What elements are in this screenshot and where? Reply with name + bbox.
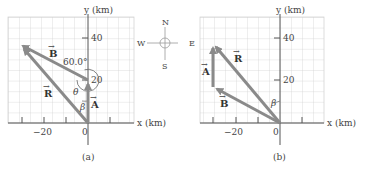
compass-S: S bbox=[162, 62, 167, 71]
y-tick-label-20-b: 20 bbox=[283, 75, 295, 85]
arrow-over-B-a: → bbox=[48, 42, 55, 51]
y-tick-label-40-b: 40 bbox=[283, 33, 295, 43]
x-tick-label-neg20-b: −20 bbox=[224, 127, 243, 137]
panel-a: y (km) x (km) −20 0 20 40 B → R → A → 60… bbox=[8, 5, 166, 162]
y-axis-label-a: y (km) bbox=[83, 5, 113, 15]
compass-N: N bbox=[162, 18, 169, 27]
x-tick-label-0-b: 0 bbox=[273, 127, 279, 137]
x-axis-label-a: x (km) bbox=[137, 118, 166, 128]
beta-label-b: β bbox=[270, 98, 276, 108]
theta-label-a: θ bbox=[73, 87, 79, 97]
arrow-over-A-a: → bbox=[90, 93, 97, 102]
caption-a: (a) bbox=[82, 152, 94, 162]
x-tick-label-0-a: 0 bbox=[82, 127, 88, 137]
arrow-over-R-a: → bbox=[43, 82, 50, 91]
compass-E: E bbox=[189, 39, 195, 48]
panel-b: y (km) x (km) −20 0 20 40 A → R → B → β … bbox=[200, 5, 356, 162]
arrow-over-B-b: → bbox=[219, 92, 226, 101]
y-tick-label-40-a: 40 bbox=[91, 33, 103, 43]
compass-W: W bbox=[137, 39, 146, 48]
angle-label-60-a: 60.0° bbox=[63, 57, 88, 67]
grid-b bbox=[200, 17, 324, 123]
x-tick-label-neg20-a: −20 bbox=[33, 127, 52, 137]
arrow-over-R-b: → bbox=[233, 47, 240, 56]
arrow-over-A-b: → bbox=[201, 60, 208, 69]
beta-label-a: β bbox=[79, 102, 85, 112]
y-axis-label-b: y (km) bbox=[275, 5, 305, 15]
x-axis-label-b: x (km) bbox=[327, 118, 356, 128]
y-tick-label-20-a: 20 bbox=[91, 75, 103, 85]
caption-b: (b) bbox=[273, 152, 286, 162]
compass: N S W E bbox=[137, 18, 195, 71]
